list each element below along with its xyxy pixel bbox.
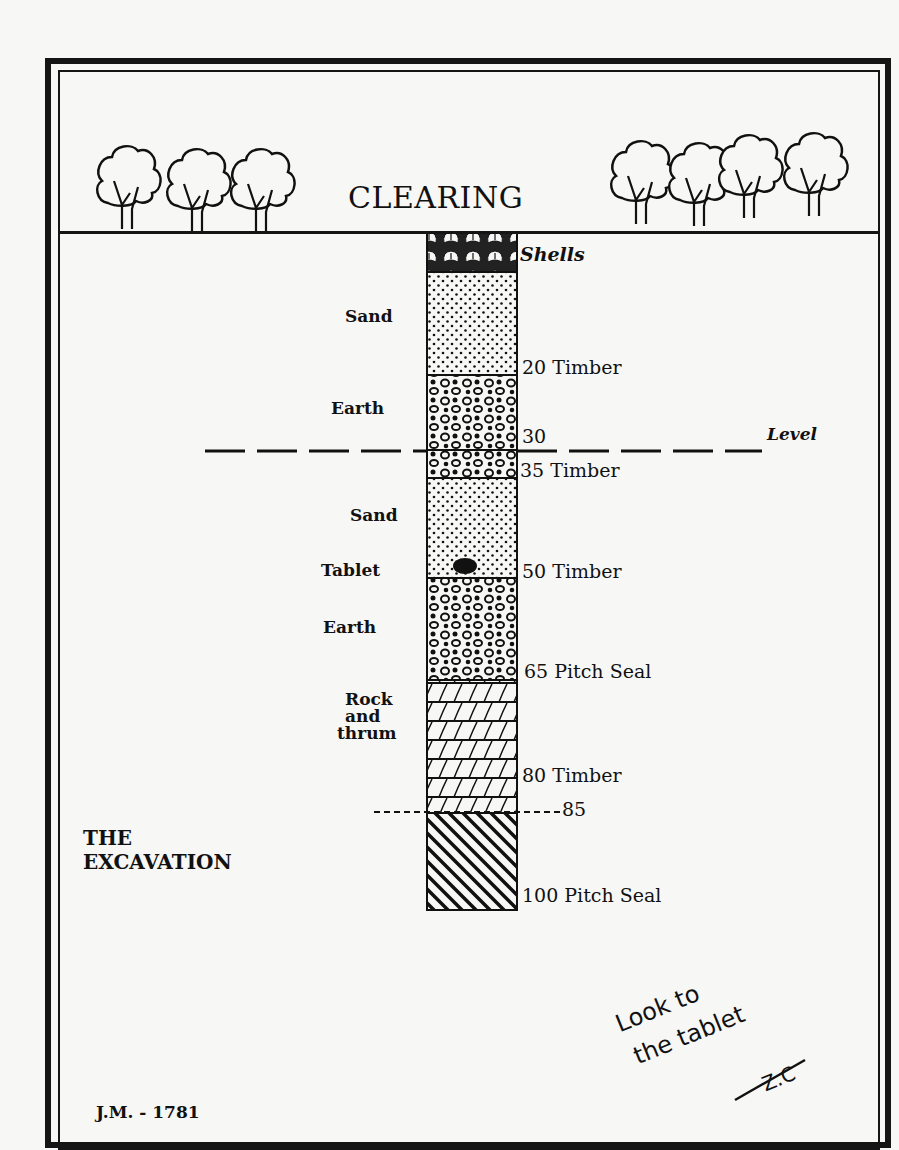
label-depth-65: 65 Pitch Seal <box>524 660 651 682</box>
caption-the: THE <box>83 826 132 850</box>
label-earth-2: Earth <box>323 617 376 637</box>
label-depth-80: 80 Timber <box>522 764 621 786</box>
label-depth-35: 35 Timber <box>520 459 619 481</box>
label-depth-50: 50 Timber <box>522 560 621 582</box>
label-earth-1: Earth <box>331 398 384 418</box>
label-thrum: thrum <box>337 725 397 742</box>
signature: J.M. - 1781 <box>96 1102 200 1122</box>
ground-line <box>58 231 880 234</box>
label-depth-85: 85 <box>562 798 586 820</box>
label-depth-30: 30 <box>522 425 546 447</box>
label-sand-2: Sand <box>350 505 398 525</box>
caption-excavation: EXCAVATION <box>83 850 232 874</box>
label-level: Level <box>767 424 817 444</box>
label-depth-100: 100 Pitch Seal <box>522 884 661 906</box>
label-sand-1: Sand <box>345 306 393 326</box>
label-shells: Shells <box>520 243 585 265</box>
label-tablet: Tablet <box>321 560 380 580</box>
diagram-title: CLEARING <box>348 180 523 215</box>
label-depth-20: 20 Timber <box>522 356 621 378</box>
